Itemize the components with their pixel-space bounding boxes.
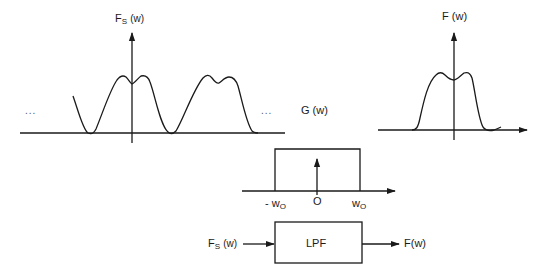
g-axis-label: G (w) [301,105,328,116]
f-spectrum-curve [412,73,501,131]
fs-axis-label: FS (w) [115,13,144,24]
original-spectrum-plot [378,33,527,140]
fs-label-sub: S [122,17,127,26]
tick-pos-w0: wO [352,198,366,209]
tick-neg-w0: - wO [265,198,286,209]
ellipsis-left: ... [25,105,36,116]
f-axis-label: F (w) [442,11,467,22]
fs-label-arg: (w) [130,13,144,24]
diagram-canvas [0,0,539,279]
fs-label-main: F [115,12,122,24]
fs-spectrum-curve [73,75,258,133]
lpf-output-label: F(w) [404,238,426,249]
tick-zero: O [313,196,322,207]
sampled-spectrum-plot [20,33,285,143]
ellipsis-right: ... [261,105,272,116]
lpf-block-label: LPF [306,238,326,249]
lpf-input-label: FS (w) [208,238,237,249]
filter-response-plot [242,149,395,195]
